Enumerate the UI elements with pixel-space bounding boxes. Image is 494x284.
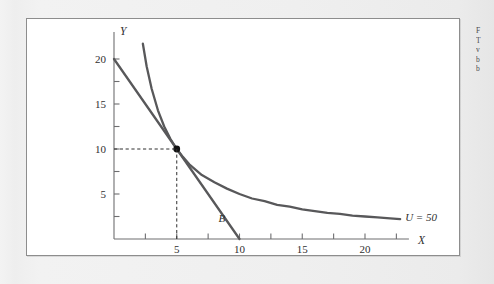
y-tick-label: 20 [95,53,107,65]
indifference-curve-label: U = 50 [405,211,437,223]
y-tick-label: 5 [101,188,107,200]
x-tick-label: 20 [360,243,372,255]
x-axis-label: X [417,234,426,246]
margin-caption-line-3: v [476,45,494,55]
x-tick-label: 10 [234,243,246,255]
x-tick-label: 15 [297,243,309,255]
indifference-curve [143,44,400,220]
budget-line-label: B [219,212,226,224]
y-axis-label: Y [120,25,128,37]
x-tick-label: 5 [174,243,180,255]
margin-caption-line-2: T [476,36,494,46]
margin-caption-line-4: b [476,55,494,65]
figure-page: 51015205101520YXBU = 50 F T v b b [0,0,494,284]
budget-indifference-chart: 51015205101520YXBU = 50 [27,19,461,257]
margin-caption-clipped: F T v b b [476,26,494,78]
y-tick-label: 15 [95,98,107,110]
figure-panel: 51015205101520YXBU = 50 [26,18,460,256]
margin-caption-line-1: F [476,26,494,36]
margin-caption-line-5: b [476,64,494,74]
y-tick-label: 10 [95,143,107,155]
